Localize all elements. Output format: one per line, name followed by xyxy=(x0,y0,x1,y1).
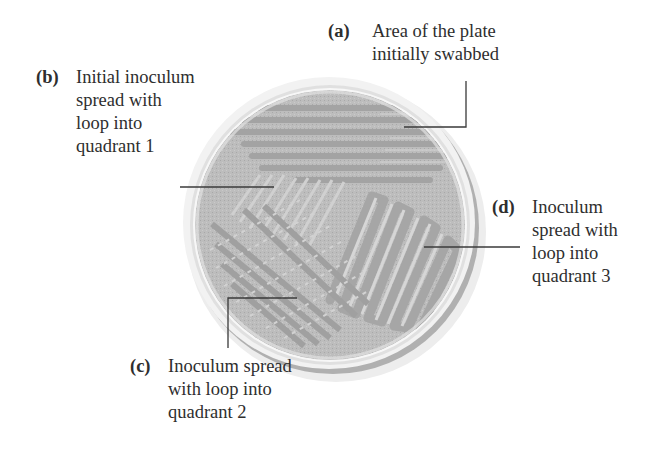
label-d-quadrant-3: (d) Inoculum spread with loop into quadr… xyxy=(492,196,618,288)
label-b-line-4: quadrant 1 xyxy=(76,135,195,158)
label-a-initial-swab: (a) Area of the plate initially swabbed xyxy=(328,20,499,66)
label-a-tag: (a) xyxy=(328,20,372,43)
label-d-line-1: Inoculum xyxy=(532,196,618,219)
label-b-tag: (b) xyxy=(36,66,76,89)
label-b-line-1: Initial inoculum xyxy=(76,66,195,89)
label-c-line-1: Inoculum spread xyxy=(168,355,292,378)
label-c-quadrant-2: (c) Inoculum spread with loop into quadr… xyxy=(130,355,292,424)
label-d-line-2: spread with xyxy=(532,219,618,242)
label-c-tag: (c) xyxy=(130,355,168,378)
label-d-line-4: quadrant 3 xyxy=(532,265,618,288)
label-b-quadrant-1: (b) Initial inoculum spread with loop in… xyxy=(36,66,195,158)
label-c-line-3: quadrant 2 xyxy=(168,401,292,424)
label-c-line-2: with loop into xyxy=(168,378,292,401)
label-a-line-1: Area of the plate xyxy=(372,20,499,43)
label-b-line-3: loop into xyxy=(76,112,195,135)
label-d-line-3: loop into xyxy=(532,242,618,265)
label-a-line-2: initially swabbed xyxy=(372,43,499,66)
agar-surface xyxy=(195,90,465,360)
label-b-line-2: spread with xyxy=(76,89,195,112)
streak-plate-diagram: (a) Area of the plate initially swabbed … xyxy=(0,0,665,470)
label-d-tag: (d) xyxy=(492,196,532,219)
